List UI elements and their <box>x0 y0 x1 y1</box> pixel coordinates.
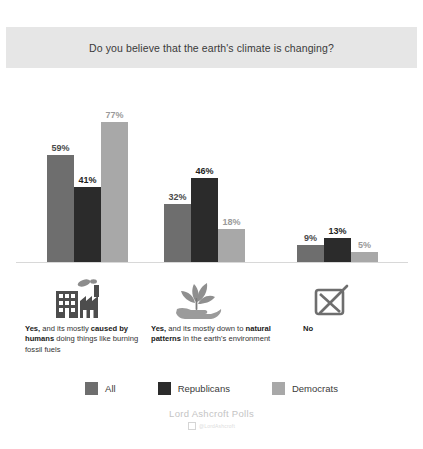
caption-2-part1: Yes, <box>151 324 166 333</box>
bar-value-republicans-group1: 41% <box>78 175 96 185</box>
bar-rect-republicans-group3 <box>324 238 351 262</box>
page-title: Do you believe that the earth's climate … <box>89 42 334 54</box>
twitter-icon <box>188 422 196 430</box>
legend-item-all[interactable]: All <box>85 378 116 398</box>
legend-swatch-democrats <box>272 382 285 395</box>
caption-2-part4: in the earth's environment <box>181 334 270 343</box>
bar-rect-all-group3 <box>297 245 324 262</box>
caption-3-part1: No <box>303 324 313 333</box>
bar-rect-democrats-group2 <box>218 229 245 262</box>
footer-handle-row: @LordAshcroft <box>0 422 423 430</box>
bar-rect-democrats-group3 <box>351 252 378 262</box>
bar-value-democrats-group2: 18% <box>222 217 240 227</box>
category-caption-3: No <box>303 324 383 334</box>
bar-rect-republicans-group1 <box>74 187 101 262</box>
bar-value-republicans-group2: 46% <box>195 166 213 176</box>
category-icons-row <box>0 276 423 328</box>
legend-swatch-all <box>85 382 98 395</box>
bar-democrats-group1: 77% <box>101 110 128 262</box>
category-caption-1: Yes, and its mostly caused by humans doi… <box>25 324 147 355</box>
bar-rect-all-group2 <box>164 204 191 262</box>
crossed-box-icon <box>297 276 367 324</box>
category-captions: Yes, and its mostly caused by humans doi… <box>0 324 423 372</box>
bar-all-group3: 9% <box>297 233 324 262</box>
bar-value-all-group3: 9% <box>304 233 317 243</box>
bar-value-all-group2: 32% <box>168 192 186 202</box>
bar-rect-democrats-group1 <box>101 122 128 262</box>
legend-swatch-republicans <box>158 382 171 395</box>
bar-democrats-group2: 18% <box>218 217 245 262</box>
bar-republicans-group3: 13% <box>324 226 351 262</box>
bar-rect-all-group1 <box>47 155 74 262</box>
bar-rect-republicans-group2 <box>191 178 218 262</box>
footer-handle: @LordAshcroft <box>199 423 235 429</box>
caption-1-part1: Yes, <box>25 324 40 333</box>
legend-label-all: All <box>105 383 116 394</box>
chart-title-banner: Do you believe that the earth's climate … <box>6 27 417 68</box>
bar-republicans-group2: 46% <box>191 166 218 262</box>
legend-item-republicans[interactable]: Republicans <box>158 378 230 398</box>
bar-all-group2: 32% <box>164 192 191 262</box>
bar-chart-plot-area: 59% 41% 77% 32% 46% 18% <box>0 80 423 266</box>
chart-baseline <box>16 262 408 263</box>
bar-democrats-group3: 5% <box>351 240 378 262</box>
factory-icon <box>43 276 113 324</box>
caption-1-part2: and its mostly <box>40 324 91 333</box>
footer: Lord Ashcroft Polls @LordAshcroft <box>0 408 423 430</box>
bar-value-republicans-group3: 13% <box>328 226 346 236</box>
category-caption-2: Yes, and its mostly down to natural patt… <box>151 324 275 345</box>
bar-republicans-group1: 41% <box>74 175 101 262</box>
footer-brand: Lord Ashcroft Polls <box>0 408 423 419</box>
bar-value-democrats-group3: 5% <box>358 240 371 250</box>
legend-label-democrats: Democrats <box>292 383 338 394</box>
chart-legend: All Republicans Democrats <box>0 378 423 398</box>
bar-value-democrats-group1: 77% <box>105 110 123 120</box>
hand-plant-icon <box>162 276 232 324</box>
bar-value-all-group1: 59% <box>51 143 69 153</box>
legend-item-democrats[interactable]: Democrats <box>272 378 338 398</box>
bar-all-group1: 59% <box>47 143 74 262</box>
caption-2-part2: and its mostly down to <box>166 324 245 333</box>
legend-label-republicans: Republicans <box>178 383 230 394</box>
